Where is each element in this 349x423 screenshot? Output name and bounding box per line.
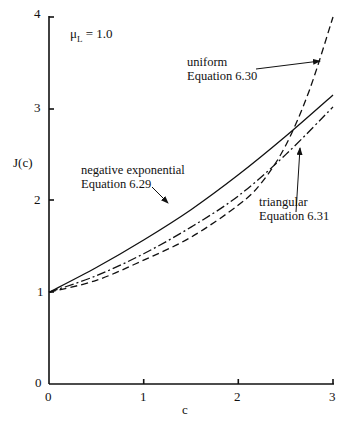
y-tick-3: 3 — [34, 101, 41, 115]
x-axis-label: c — [182, 403, 188, 417]
y-tick-1: 1 — [37, 285, 44, 299]
y-tick-0: 0 — [35, 376, 42, 390]
x-tick-2: 2 — [234, 390, 241, 404]
triangular-label: triangular Equation 6.31 — [259, 195, 329, 223]
mu-symbol: μ — [70, 26, 77, 41]
neg-exp-label: negative exponential Equation 6.29 — [81, 163, 185, 191]
x-tick-0: 0 — [45, 390, 52, 404]
uniform-arrow — [256, 61, 320, 69]
uniform-equation: Equation 6.30 — [187, 69, 257, 83]
y-tick-4: 4 — [34, 7, 41, 21]
x-tick-1: 1 — [140, 390, 147, 404]
x-tick-3: 3 — [329, 390, 336, 404]
y-axis-label: J(c) — [13, 156, 33, 170]
negative-exponential-curve — [49, 95, 333, 292]
mu-value: = 1.0 — [82, 26, 112, 41]
y-tick-2: 2 — [34, 193, 41, 207]
neg-exp-equation: Equation 6.29 — [81, 177, 185, 191]
neg-exp-name: negative exponential — [81, 163, 185, 177]
uniform-name: uniform — [187, 55, 257, 69]
triangular-equation: Equation 6.31 — [259, 209, 329, 223]
uniform-label: uniform Equation 6.30 — [187, 55, 257, 83]
triangular-name: triangular — [259, 195, 329, 209]
parameter-annotation: μL = 1.0 — [70, 27, 113, 46]
